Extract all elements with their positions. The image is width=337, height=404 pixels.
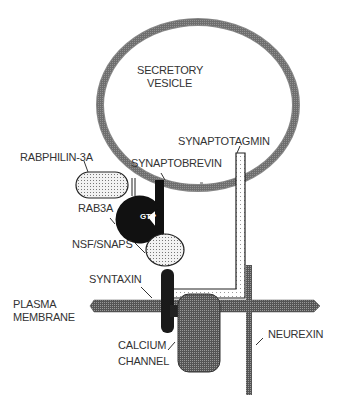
- calcium-channel: [178, 294, 220, 372]
- label-synaptobrevin: SYNAPTOBREVIN: [131, 157, 222, 170]
- label-rab3a: RAB3A: [78, 202, 113, 215]
- label-membrane: MEMBRANE: [13, 311, 75, 324]
- label-rabphilin: RABPHILIN-3A: [20, 151, 93, 164]
- rabphilin-3a: [76, 172, 128, 198]
- neurexin: [246, 265, 252, 395]
- label-neurexin: NEUREXIN: [268, 328, 323, 341]
- label-plasma: PLASMA: [13, 298, 56, 311]
- label-nsf-snaps: NSF/SNAPS: [72, 238, 133, 251]
- label-gtp: GTP: [140, 210, 156, 223]
- label-secretory: SECRETORY: [137, 64, 203, 77]
- syntaxin: [161, 269, 174, 333]
- synaptotagmin: [172, 153, 245, 298]
- nsf-snaps: [146, 234, 184, 266]
- label-vesicle: VESICLE: [147, 77, 192, 90]
- label-channel: CHANNEL: [118, 355, 169, 368]
- label-syntaxin: SYNTAXIN: [89, 273, 142, 286]
- synapse-diagram: [0, 0, 337, 404]
- label-synaptotagmin: SYNAPTOTAGMIN: [178, 135, 270, 148]
- label-calcium: CALCIUM: [118, 339, 166, 352]
